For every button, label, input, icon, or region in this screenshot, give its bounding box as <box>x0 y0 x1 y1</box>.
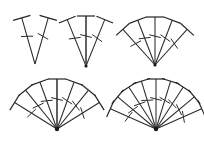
nail-glyph <box>57 84 95 129</box>
nail-head-icon <box>10 95 20 110</box>
nail-glyph <box>155 23 194 65</box>
nail-barb-icon <box>134 102 145 106</box>
clusters-layer <box>10 15 204 131</box>
nail-shaft <box>67 20 86 66</box>
nail-glyph <box>133 79 156 129</box>
nail-shaft <box>40 82 57 129</box>
nail-glyph <box>19 84 57 129</box>
nail-barb-icon <box>160 35 170 42</box>
nail-cluster <box>107 79 204 132</box>
fan-apex-point <box>154 127 158 131</box>
nail-cluster <box>59 16 113 68</box>
nail-barb-icon <box>176 104 181 115</box>
nail-shaft <box>86 20 105 66</box>
nail-head-icon <box>96 16 113 23</box>
nail-barb-icon <box>171 39 178 49</box>
nail-cluster <box>13 15 57 64</box>
nail-barb-icon <box>81 107 85 118</box>
nail-shaft <box>26 90 57 129</box>
nail-glyph <box>59 16 86 66</box>
nail-head-icon <box>116 23 129 35</box>
nail-glyph <box>77 16 95 66</box>
nail-shaft <box>57 82 74 129</box>
fan-apex-point <box>55 127 59 131</box>
nail-glyph <box>147 79 165 129</box>
nail-barb-icon <box>130 41 141 47</box>
nail-head-icon <box>59 16 76 23</box>
nail-shaft <box>141 81 156 129</box>
nail-barb-icon <box>38 33 48 39</box>
nail-shaft <box>155 29 187 65</box>
nail-glyph <box>13 15 35 64</box>
figure-root <box>0 0 204 168</box>
nail-head-icon <box>31 79 48 85</box>
nail-shaft <box>156 81 171 129</box>
nail-cluster <box>10 79 104 131</box>
nail-shaft <box>57 90 88 129</box>
nail-glyph <box>156 82 191 129</box>
nail-shaft <box>155 20 172 65</box>
nail-shaft <box>138 20 155 65</box>
nail-cluster <box>116 17 194 67</box>
nail-shaft <box>118 97 156 129</box>
nail-head-icon <box>95 95 105 110</box>
nail-glyph <box>35 15 57 64</box>
nail-head-icon <box>164 17 181 23</box>
nail-shaft <box>156 97 194 129</box>
nail-shaft <box>57 103 99 130</box>
nail-barb-icon <box>141 100 153 101</box>
nail-barb-icon <box>33 103 44 108</box>
nail-glyph <box>156 79 179 129</box>
nail-barb-icon <box>168 99 176 108</box>
nail-shaft <box>35 18 48 64</box>
nail-glyph <box>116 23 155 65</box>
nail-head-icon <box>81 84 95 95</box>
nail-barb-icon <box>62 97 72 104</box>
nail-head-icon <box>66 79 83 85</box>
nail-barb-icon <box>41 100 53 101</box>
nail-barb-icon <box>27 109 36 117</box>
nail-head-icon <box>180 23 193 35</box>
fan-apex-point <box>84 64 87 67</box>
fan-apex-point <box>153 63 156 66</box>
nail-barb-icon <box>92 35 102 42</box>
nail-head-icon <box>19 84 33 95</box>
nail-head-icon <box>129 17 146 23</box>
nail-glyph <box>121 82 156 129</box>
nail-fan-diagram <box>0 0 204 168</box>
nail-shaft <box>22 18 35 64</box>
nail-glyph <box>86 16 113 66</box>
